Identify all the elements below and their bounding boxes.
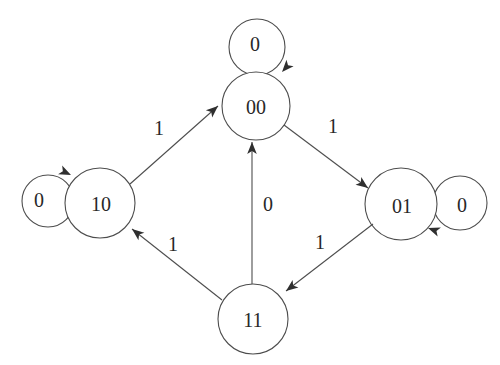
state-diagram-canvas: 00 10 01 11 0 0 0 1 1 0 1 1 bbox=[0, 0, 500, 365]
edge-10-to-00 bbox=[130, 106, 218, 184]
state-diagram: 00 10 01 11 0 0 0 1 1 0 1 1 bbox=[0, 0, 500, 365]
self-loop-10-arrowhead-icon bbox=[58, 166, 73, 180]
edge-01-to-11 bbox=[286, 224, 373, 291]
state-label-00: 00 bbox=[246, 96, 266, 118]
self-loop-label-10: 0 bbox=[34, 189, 44, 211]
edge-00-to-01 bbox=[284, 125, 368, 188]
edge-label-00-to-01: 1 bbox=[328, 115, 338, 137]
self-loop-label-01: 0 bbox=[457, 194, 467, 216]
edge-label-01-to-11: 1 bbox=[315, 231, 325, 253]
edge-label-11-to-00: 0 bbox=[263, 193, 273, 215]
state-label-01: 01 bbox=[392, 195, 412, 217]
edge-label-11-to-10: 1 bbox=[168, 233, 178, 255]
state-label-11: 11 bbox=[243, 309, 262, 331]
edge-label-10-to-00: 1 bbox=[154, 117, 164, 139]
state-label-10: 10 bbox=[91, 193, 111, 215]
self-loop-label-00: 0 bbox=[250, 33, 260, 55]
